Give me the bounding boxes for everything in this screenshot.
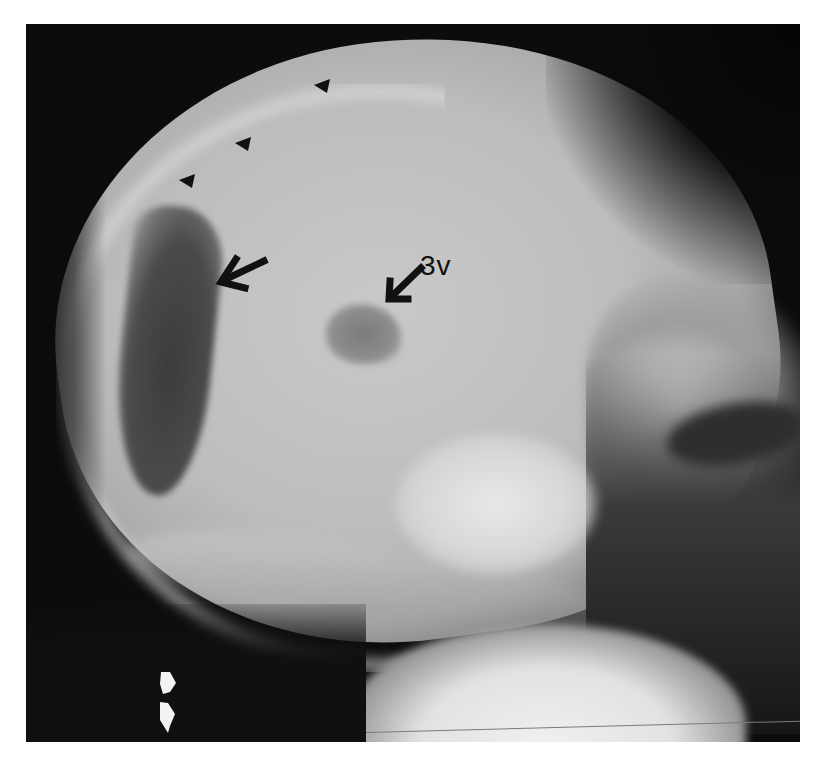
white-arrow-icon [160,702,175,733]
white-arrow-icon [160,672,176,694]
white-arrow-icons [160,672,176,733]
arrowhead-icon [235,137,251,151]
arrowhead-icon [314,79,330,93]
annotation-overlay [0,0,822,767]
arrowhead-icons [179,79,330,188]
arrow-icon-ventricle [221,259,264,288]
arrowhead-icon [179,174,195,188]
arrow-icon-third-ventricle [389,268,421,299]
third-ventricle-label: 3v [420,252,452,280]
